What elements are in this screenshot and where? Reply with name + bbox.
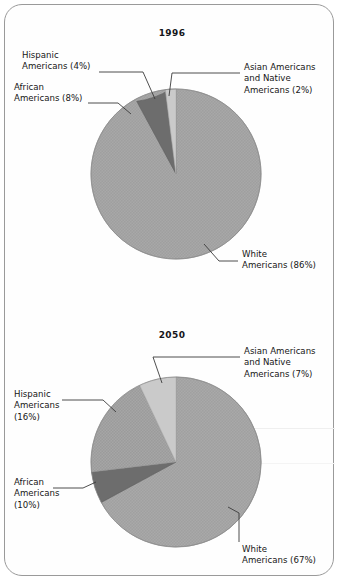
label-hispanic-2050: Hispanic Americans (16%) — [14, 389, 102, 423]
label-white-2050: White Americans (67%) — [242, 544, 340, 567]
label-white-1996: White Americans (86%) — [242, 249, 340, 272]
pie-2050-svg — [88, 374, 264, 550]
chart-title-2050: 2050 — [0, 330, 344, 340]
label-asian-1996: Asian Americans and Native Americans (2%… — [244, 62, 340, 96]
label-african-1996: African Americans (8%) — [14, 82, 104, 105]
pie-1996 — [88, 86, 264, 262]
label-hispanic-1996: Hispanic Americans (4%) — [22, 50, 112, 73]
pie-1996-svg — [88, 86, 264, 262]
chart-2050: 2050 — [0, 300, 344, 584]
label-african-2050: African Americans (10%) — [14, 477, 102, 511]
label-asian-2050: Asian Americans and Native Americans (7%… — [244, 346, 340, 380]
chart-title-1996: 1996 — [0, 28, 344, 38]
pie-2050 — [88, 374, 264, 550]
chart-1996: 1996 — [0, 0, 344, 300]
